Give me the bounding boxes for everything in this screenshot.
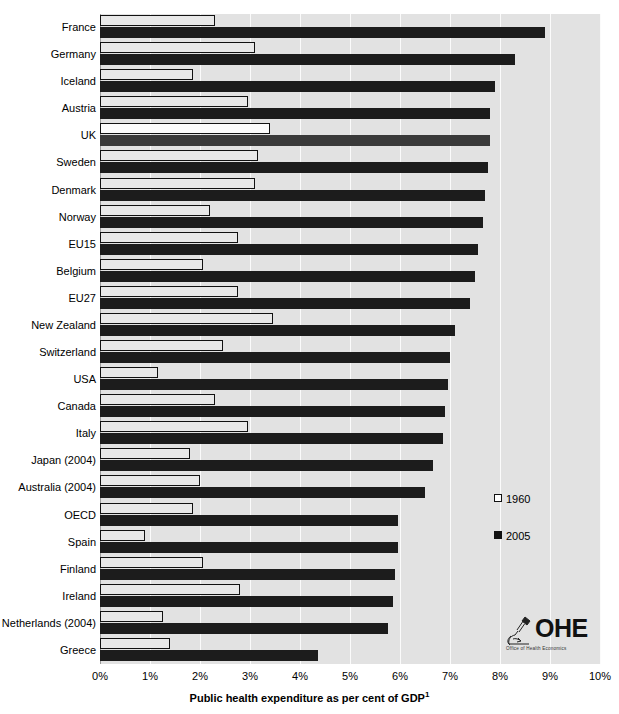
legend-label-2005: 2005 xyxy=(506,530,530,542)
x-axis-tick-label: 9% xyxy=(530,670,570,682)
bar-1960[interactable] xyxy=(100,123,270,134)
bar-1960[interactable] xyxy=(100,638,170,649)
bar-row[interactable] xyxy=(100,258,600,284)
bar-2005[interactable] xyxy=(100,433,443,444)
bar-1960[interactable] xyxy=(100,530,145,541)
bar-row[interactable] xyxy=(100,393,600,419)
chart-root: FranceGermanyIcelandAustriaUKSwedenDenma… xyxy=(0,0,619,714)
bar-1960[interactable] xyxy=(100,475,200,486)
x-axis-tick-label: 8% xyxy=(480,670,520,682)
bar-1960[interactable] xyxy=(100,69,193,80)
bar-1960[interactable] xyxy=(100,503,193,514)
bar-row[interactable] xyxy=(100,231,600,257)
bar-1960[interactable] xyxy=(100,259,203,270)
bar-2005[interactable] xyxy=(100,596,393,607)
bar-row[interactable] xyxy=(100,312,600,338)
bar-2005[interactable] xyxy=(100,298,470,309)
bar-row[interactable] xyxy=(100,122,600,148)
bar-2005[interactable] xyxy=(100,162,488,173)
category-label: Greece xyxy=(0,637,96,663)
bar-row[interactable] xyxy=(100,41,600,67)
category-label: Denmark xyxy=(0,177,96,203)
category-label: UK xyxy=(0,122,96,148)
category-label: USA xyxy=(0,366,96,392)
bar-1960[interactable] xyxy=(100,584,240,595)
bar-row[interactable] xyxy=(100,68,600,94)
bar-2005[interactable] xyxy=(100,135,490,146)
bar-1960[interactable] xyxy=(100,367,158,378)
bar-1960[interactable] xyxy=(100,96,248,107)
bar-row[interactable] xyxy=(100,366,600,392)
category-label: Belgium xyxy=(0,258,96,284)
category-label: EU27 xyxy=(0,285,96,311)
category-label: Sweden xyxy=(0,149,96,175)
bar-1960[interactable] xyxy=(100,42,255,53)
value-axis-ticks: 0%1%2%3%4%5%6%7%8%9%10% xyxy=(100,664,600,688)
bar-1960[interactable] xyxy=(100,205,210,216)
bar-2005[interactable] xyxy=(100,190,485,201)
bar-2005[interactable] xyxy=(100,217,483,228)
category-label: Germany xyxy=(0,41,96,67)
bar-2005[interactable] xyxy=(100,569,395,580)
bar-2005[interactable] xyxy=(100,54,515,65)
bar-1960[interactable] xyxy=(100,15,215,26)
legend-item-1960: 1960 xyxy=(494,492,530,505)
bar-2005[interactable] xyxy=(100,623,388,634)
bar-2005[interactable] xyxy=(100,650,318,661)
bar-row[interactable] xyxy=(100,204,600,230)
bar-rows xyxy=(100,14,600,664)
x-axis-tick-label: 3% xyxy=(230,670,270,682)
x-axis-tick-label: 6% xyxy=(380,670,420,682)
bar-2005[interactable] xyxy=(100,487,425,498)
category-label: Australia (2004) xyxy=(0,474,96,500)
bar-row[interactable] xyxy=(100,502,600,528)
bar-row[interactable] xyxy=(100,420,600,446)
bar-1960[interactable] xyxy=(100,611,163,622)
bar-2005[interactable] xyxy=(100,271,475,282)
bar-1960[interactable] xyxy=(100,178,255,189)
bar-row[interactable] xyxy=(100,447,600,473)
bar-row[interactable] xyxy=(100,95,600,121)
ohe-wordmark: OHE xyxy=(535,616,588,641)
bar-row[interactable] xyxy=(100,149,600,175)
category-label: Netherlands (2004) xyxy=(0,610,96,636)
bar-1960[interactable] xyxy=(100,313,273,324)
bar-2005[interactable] xyxy=(100,460,433,471)
bar-2005[interactable] xyxy=(100,81,495,92)
bar-2005[interactable] xyxy=(100,325,455,336)
open-square-icon xyxy=(494,494,502,502)
category-axis: FranceGermanyIcelandAustriaUKSwedenDenma… xyxy=(0,14,96,664)
bar-1960[interactable] xyxy=(100,232,238,243)
bar-row[interactable] xyxy=(100,339,600,365)
bar-row[interactable] xyxy=(100,583,600,609)
ohe-logo: OHE Office of Health Economics xyxy=(505,612,605,658)
bar-row[interactable] xyxy=(100,556,600,582)
category-label: Ireland xyxy=(0,583,96,609)
x-axis-tick-label: 1% xyxy=(130,670,170,682)
bar-2005[interactable] xyxy=(100,108,490,119)
bar-2005[interactable] xyxy=(100,542,398,553)
ohe-subtitle: Office of Health Economics xyxy=(506,646,606,651)
category-label: Canada xyxy=(0,393,96,419)
category-label: EU15 xyxy=(0,231,96,257)
bar-2005[interactable] xyxy=(100,27,545,38)
bar-1960[interactable] xyxy=(100,448,190,459)
category-label: Iceland xyxy=(0,68,96,94)
bar-1960[interactable] xyxy=(100,394,215,405)
bar-2005[interactable] xyxy=(100,379,448,390)
bar-2005[interactable] xyxy=(100,244,478,255)
bar-1960[interactable] xyxy=(100,150,258,161)
bar-row[interactable] xyxy=(100,177,600,203)
bar-1960[interactable] xyxy=(100,286,238,297)
bar-2005[interactable] xyxy=(100,352,450,363)
bar-1960[interactable] xyxy=(100,340,223,351)
category-label: Finland xyxy=(0,556,96,582)
bar-1960[interactable] xyxy=(100,421,248,432)
bar-2005[interactable] xyxy=(100,406,445,417)
bar-row[interactable] xyxy=(100,14,600,40)
bar-row[interactable] xyxy=(100,285,600,311)
microscope-icon xyxy=(505,614,537,648)
bar-2005[interactable] xyxy=(100,515,398,526)
bar-1960[interactable] xyxy=(100,557,203,568)
x-axis-title-footnote: 1 xyxy=(425,690,429,699)
